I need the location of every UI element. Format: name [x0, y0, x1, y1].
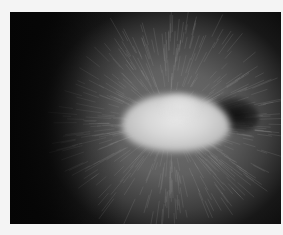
bright-mass-highlight: [160, 92, 200, 122]
photograph: [10, 12, 281, 224]
